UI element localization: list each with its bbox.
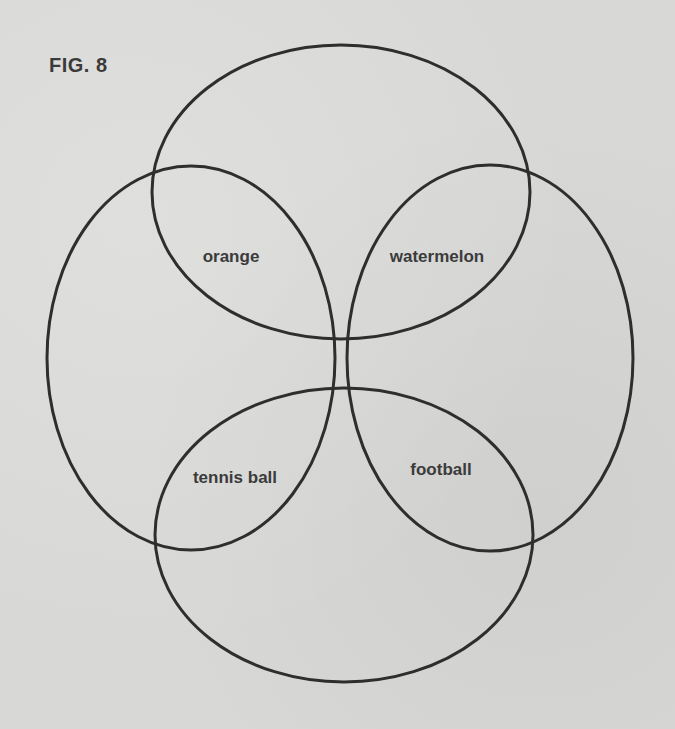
ellipse-top [152,45,530,339]
ellipse-bottom [155,388,533,682]
label-orange: orange [203,247,260,267]
label-tennis-ball: tennis ball [193,468,277,488]
label-watermelon: watermelon [390,247,484,267]
ellipse-left [47,166,335,550]
label-football: football [410,460,471,480]
venn-diagram [0,0,675,729]
ellipse-right [347,165,633,551]
